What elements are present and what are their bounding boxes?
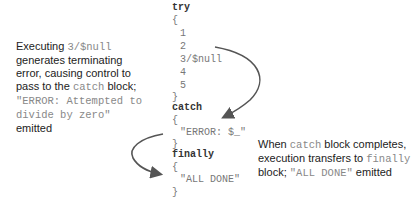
arrow-try-to-catch-icon	[215, 47, 260, 117]
arrow-catch-to-finally-icon	[132, 134, 163, 174]
flow-arrows	[0, 0, 419, 200]
